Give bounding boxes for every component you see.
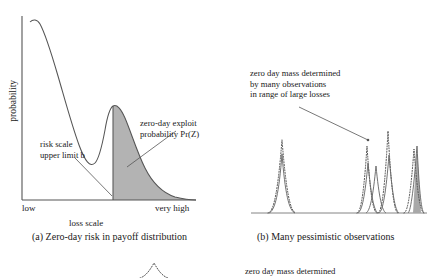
panel-b-caption: (b) Many pessimistic observations — [257, 231, 394, 243]
threshold-annotation-line-1: risk scale — [40, 139, 85, 150]
threshold-annotation-line-2: upper limit b — [40, 150, 85, 161]
tail-annotation-line-1: zero-day exploit — [140, 118, 199, 129]
panel-a-tail-annotation: zero-day exploit probability Pr(Z) — [140, 118, 199, 139]
panel-b-leader-dot — [367, 139, 370, 142]
panel-b-annotation-line-1: zero day mass determined — [250, 68, 340, 79]
panel-a-caption: (a) Zero-day risk in payoff distribution — [32, 231, 187, 243]
panel-b-leader-line — [299, 107, 368, 140]
panel-a-xtick-low: low — [22, 203, 36, 214]
panel-a-threshold-annotation: risk scale upper limit b — [40, 139, 85, 160]
dotted-envelope-peaks — [268, 131, 424, 213]
panel-a-xtick-very-high: very high — [155, 203, 189, 214]
panel-a-plot — [22, 16, 196, 200]
figure-zero-day-risk: probability low very high loss scale (a)… — [0, 0, 427, 278]
panel-b-plot — [251, 107, 427, 213]
panel-b-annotation-line-2: by many observations — [250, 79, 340, 90]
tail-annotation-line-2: probability Pr(Z) — [140, 129, 199, 140]
panel-b-annotation: zero day mass determined by many observa… — [250, 68, 340, 100]
panel-b-annotation-line-3: in range of large losses — [250, 89, 340, 100]
solid-observation-peaks — [269, 146, 424, 213]
panel-a-y-axis-label: probability — [8, 71, 20, 131]
legend-glyph-dotted-peak — [140, 263, 168, 278]
legend-entry-label: zero day mass determined — [245, 266, 335, 277]
panel-a-x-axis-label: loss scale — [69, 218, 103, 229]
